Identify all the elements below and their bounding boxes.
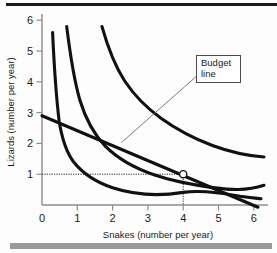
indifference-curve-2 <box>67 27 264 190</box>
y-axis-title: Lizards (number per year) <box>5 57 16 166</box>
y-tick-label-1: 1 <box>27 168 33 180</box>
budget-line-leader <box>122 74 200 143</box>
y-tick-label-5: 5 <box>27 45 33 57</box>
chart-plot-area: 1 2 3 4 5 6 0 1 2 3 4 5 6 <box>0 0 277 253</box>
budget-line-callout-label: Budget line <box>196 55 241 83</box>
x-tick-label-3: 3 <box>145 212 151 224</box>
y-tick-label-6: 6 <box>27 14 33 26</box>
x-tick-label-0: 0 <box>39 212 45 224</box>
figure-container: 1 2 3 4 5 6 0 1 2 3 4 5 6 <box>0 0 277 253</box>
optimal-choice-point <box>180 171 187 178</box>
x-tick-label-5: 5 <box>215 212 221 224</box>
x-axis-title: Snakes (number per year) <box>103 229 213 240</box>
indifference-curve-3 <box>102 27 264 157</box>
x-tick-label-6: 6 <box>251 212 257 224</box>
y-tick-label-3: 3 <box>27 107 33 119</box>
y-tick-label-4: 4 <box>27 76 33 88</box>
y-tick-label-2: 2 <box>27 137 33 149</box>
x-tick-label-2: 2 <box>110 212 116 224</box>
x-axis: 0 1 2 3 4 5 6 <box>39 205 268 224</box>
bottom-bar-divider <box>10 243 272 249</box>
x-tick-label-4: 4 <box>180 212 186 224</box>
y-axis: 1 2 3 4 5 6 <box>27 14 42 205</box>
x-tick-label-1: 1 <box>74 212 80 224</box>
